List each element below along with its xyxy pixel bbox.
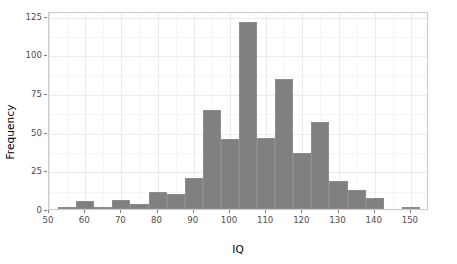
gridline-vertical bbox=[375, 13, 376, 209]
gridline-vertical bbox=[411, 13, 412, 209]
gridline-horizontal-minor bbox=[49, 114, 427, 115]
histogram-bar bbox=[348, 190, 366, 209]
histogram-bar bbox=[366, 198, 384, 209]
gridline-horizontal bbox=[49, 18, 427, 19]
y-tick-label: 25 bbox=[18, 166, 42, 176]
gridline-horizontal bbox=[49, 95, 427, 96]
y-tick-mark bbox=[44, 133, 47, 134]
x-tick-label: 70 bbox=[105, 215, 135, 225]
histogram-bar bbox=[257, 138, 275, 209]
gridline-vertical bbox=[85, 13, 86, 209]
x-tick-label: 140 bbox=[359, 215, 389, 225]
x-tick-mark bbox=[374, 210, 375, 213]
x-tick-label: 50 bbox=[33, 215, 63, 225]
x-tick-mark bbox=[157, 210, 158, 213]
histogram-bar bbox=[221, 139, 239, 209]
gridline-vertical-minor bbox=[393, 13, 394, 209]
histogram-bar bbox=[130, 204, 148, 209]
x-tick-mark bbox=[193, 210, 194, 213]
gridline-vertical bbox=[121, 13, 122, 209]
gridline-horizontal-minor bbox=[49, 37, 427, 38]
x-tick-label: 150 bbox=[395, 215, 425, 225]
gridline-horizontal-minor bbox=[49, 76, 427, 77]
histogram-bar bbox=[167, 194, 185, 209]
gridline-vertical-minor bbox=[357, 13, 358, 209]
histogram-bar bbox=[76, 201, 94, 209]
x-tick-label: 100 bbox=[214, 215, 244, 225]
histogram-bar bbox=[185, 178, 203, 209]
histogram-bar bbox=[311, 122, 329, 209]
histogram-bar bbox=[58, 207, 76, 209]
gridline-vertical-minor bbox=[103, 13, 104, 209]
histogram-bar bbox=[402, 207, 420, 209]
y-tick-label: 100 bbox=[18, 50, 42, 60]
histogram-bar bbox=[275, 79, 293, 209]
y-tick-mark bbox=[44, 55, 47, 56]
histogram-bar bbox=[239, 22, 257, 209]
x-tick-mark bbox=[301, 210, 302, 213]
x-tick-mark bbox=[84, 210, 85, 213]
x-axis-title: IQ bbox=[48, 243, 428, 255]
gridline-vertical bbox=[339, 13, 340, 209]
histogram-bar bbox=[112, 200, 130, 209]
y-tick-label: 0 bbox=[18, 205, 42, 215]
y-tick-label: 75 bbox=[18, 89, 42, 99]
gridline-vertical-minor bbox=[67, 13, 68, 209]
x-tick-mark bbox=[338, 210, 339, 213]
plot-panel bbox=[48, 12, 428, 210]
histogram-bar bbox=[293, 153, 311, 209]
y-tick-mark bbox=[44, 210, 47, 211]
x-tick-label: 110 bbox=[250, 215, 280, 225]
y-tick-mark bbox=[44, 17, 47, 18]
gridline-vertical-minor bbox=[176, 13, 177, 209]
y-axis-title: Frequency bbox=[0, 0, 20, 264]
x-tick-mark bbox=[265, 210, 266, 213]
y-tick-label: 125 bbox=[18, 12, 42, 22]
gridline-horizontal bbox=[49, 134, 427, 135]
x-tick-mark bbox=[229, 210, 230, 213]
histogram-chart: Frequency 0255075100125 IQ 5060708090100… bbox=[0, 0, 457, 264]
x-tick-mark bbox=[410, 210, 411, 213]
x-tick-mark bbox=[120, 210, 121, 213]
histogram-bar bbox=[203, 110, 221, 209]
y-tick-mark bbox=[44, 171, 47, 172]
y-tick-mark bbox=[44, 94, 47, 95]
x-tick-label: 130 bbox=[323, 215, 353, 225]
histogram-bar bbox=[329, 181, 347, 209]
x-tick-label: 60 bbox=[69, 215, 99, 225]
gridline-horizontal bbox=[49, 56, 427, 57]
histogram-bar bbox=[149, 192, 167, 209]
x-tick-label: 90 bbox=[178, 215, 208, 225]
gridline-vertical-minor bbox=[139, 13, 140, 209]
gridline-vertical bbox=[49, 13, 50, 209]
x-tick-mark bbox=[48, 210, 49, 213]
histogram-bar bbox=[94, 207, 112, 209]
x-tick-label: 120 bbox=[286, 215, 316, 225]
x-tick-label: 80 bbox=[142, 215, 172, 225]
gridline-vertical bbox=[158, 13, 159, 209]
y-tick-label: 50 bbox=[18, 128, 42, 138]
